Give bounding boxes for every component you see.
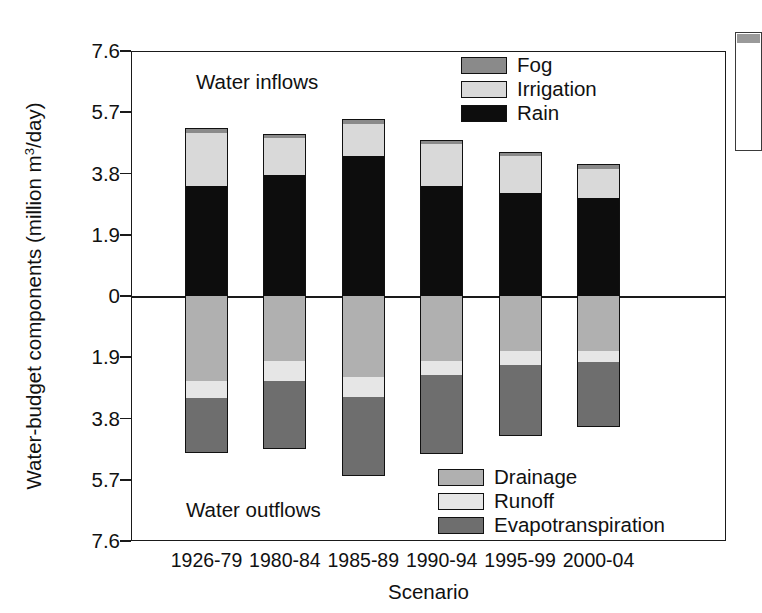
legend-swatch-drainage [438,469,484,486]
bar-segment-fog [577,164,620,168]
bar-segment-fog [263,134,306,138]
bar-segment-evapotranspiration [499,365,542,437]
bar-segment-fog [499,152,542,156]
bar-segment-irrigation [499,156,542,193]
legend-outflows: DrainageRunoffEvapotranspiration [438,466,665,538]
legend-label-runoff: Runoff [494,491,554,512]
bar-segment-drainage [263,296,306,361]
legend-inflows: FogIrrigationRain [461,54,597,126]
y-axis-title: Water-budget components (million m3/day) [22,66,47,526]
y-axis-tick-label: 1.9 [72,225,120,246]
y-axis-tick-label: 0 [72,286,120,307]
annotation-water-inflows: Water inflows [196,70,318,94]
legend-label-evapotranspiration: Evapotranspiration [494,515,665,536]
legend-item-drainage: Drainage [438,466,665,489]
bar-segment-runoff [499,351,542,365]
bar-segment-evapotranspiration [577,362,620,427]
y-axis-tick-label-wrap: 3.8 [63,419,120,420]
legend-item-rain: Rain [461,102,597,125]
legend-label-fog: Fog [517,55,552,76]
y-axis-title-text: Water-budget components (million m [22,155,45,489]
y-axis-tick [120,418,131,420]
bar-segment-irrigation [577,169,620,198]
y-axis-tick-label: 3.8 [72,164,120,185]
y-axis-tick-label: 5.7 [72,102,120,123]
legend-label-drainage: Drainage [494,467,577,488]
chart-canvas: Water-budget components (million m3/day)… [0,0,762,613]
bar-segment-evapotranspiration [342,397,385,476]
y-axis-tick-label-wrap: 7.6 [63,51,120,52]
bar-segment-runoff [420,361,463,375]
x-axis-tick-label: 1980-84 [242,549,328,572]
legend-label-irrigation: Irrigation [517,79,597,100]
bar-segment-evapotranspiration [185,398,228,453]
page-edge-artifact [735,32,762,151]
legend-item-irrigation: Irrigation [461,78,597,101]
bar-segment-drainage [420,296,463,361]
y-axis-tick [120,479,131,481]
y-axis-tick-label: 1.9 [72,347,120,368]
legend-item-evapotranspiration: Evapotranspiration [438,514,665,537]
x-axis-tick-label: 1926-79 [164,549,250,572]
y-axis-tick-label: 3.8 [72,409,120,430]
bar-column [185,51,228,541]
bar-segment-runoff [577,351,620,362]
bar-segment-drainage [342,296,385,377]
legend-swatch-evapotranspiration [438,517,484,534]
y-axis-tick [120,111,131,113]
y-axis-tick-label-wrap: 7.6 [63,541,120,542]
y-axis-tick [120,234,131,236]
y-axis-tick [120,540,131,542]
x-axis-tick-label: 1985-89 [320,549,406,572]
legend-item-fog: Fog [461,54,597,77]
y-axis-tick-label: 7.6 [72,41,120,62]
y-axis-tick-label-wrap: 1.9 [63,235,120,236]
y-axis-title-suffix: /day) [22,102,45,148]
x-axis-tick-labels: 1926-791980-841985-891990-941995-992000-… [131,549,726,575]
y-axis-tick-label-wrap: 0 [63,296,120,297]
legend-swatch-rain [461,105,507,122]
legend-swatch-runoff [438,493,484,510]
bar-segment-rain [342,156,385,296]
y-axis-title-superscript: 3 [22,148,37,155]
bar-segment-runoff [185,381,228,398]
legend-swatch-fog [461,57,507,74]
y-axis-tick [120,173,131,175]
bar-column [342,51,385,541]
legend-label-rain: Rain [517,103,559,124]
y-axis-tick [120,50,131,52]
bar-segment-runoff [342,377,385,397]
x-axis-tick-label: 1995-99 [477,549,563,572]
page-edge-artifact-bar [737,34,760,43]
bar-segment-rain [499,193,542,296]
legend-swatch-irrigation [461,81,507,98]
x-axis-tick-label: 1990-94 [399,549,485,572]
bar-segment-runoff [263,361,306,381]
bar-segment-rain [577,198,620,296]
y-axis-tick [120,295,131,297]
bar-segment-rain [420,186,463,296]
bar-segment-fog [342,119,385,124]
y-axis-tick-label: 5.7 [72,470,120,491]
bar-segment-drainage [499,296,542,351]
y-axis-tick-label-wrap: 1.9 [63,357,120,358]
bar-segment-irrigation [185,133,228,186]
bar-segment-drainage [577,296,620,351]
bar-segment-rain [263,175,306,296]
y-axis-tick-label-wrap: 3.8 [63,174,120,175]
bar-segment-fog [185,128,228,133]
bar-segment-irrigation [342,124,385,156]
bar-segment-evapotranspiration [420,375,463,453]
y-axis-tick-label: 7.6 [72,531,120,552]
bar-segment-evapotranspiration [263,381,306,449]
legend-item-runoff: Runoff [438,490,665,513]
bar-segment-rain [185,186,228,296]
annotation-water-outflows: Water outflows [186,498,321,522]
bar-segment-fog [420,140,463,145]
bar-segment-drainage [185,296,228,381]
x-axis-title: Scenario [131,580,726,604]
bar-segment-irrigation [263,138,306,175]
bar-segment-irrigation [420,144,463,186]
y-axis-tick-label-wrap: 5.7 [63,112,120,113]
x-axis-tick-label: 2000-04 [556,549,642,572]
